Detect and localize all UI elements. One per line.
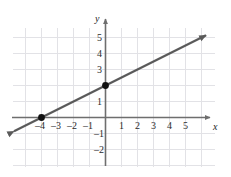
coordinate-graph: –4 –3 –2 –1 1 2 3 4 5 5 4 3 1 –1 –2 y x <box>0 0 231 177</box>
xtick-label-pos4: 4 <box>167 121 172 131</box>
grid-lines <box>13 28 215 167</box>
xtick-label-pos2: 2 <box>135 121 140 131</box>
ytick-label-neg2: –2 <box>94 145 104 155</box>
ytick-label-neg1: –1 <box>94 129 104 139</box>
plot-canvas <box>0 0 231 177</box>
xtick-label-pos1: 1 <box>119 121 124 131</box>
x-axis-label: x <box>213 122 217 132</box>
ytick-label-pos3: 3 <box>97 65 102 75</box>
ytick-label-pos5: 5 <box>97 33 102 43</box>
y-axis-label: y <box>95 14 99 24</box>
xtick-label-pos5: 5 <box>183 121 188 131</box>
xtick-label-pos3: 3 <box>151 121 156 131</box>
xtick-label-neg1: –1 <box>83 121 93 131</box>
point-y-intercept <box>102 82 109 89</box>
xtick-label-neg2: –2 <box>67 121 77 131</box>
xtick-label-neg4: –4 <box>35 121 45 131</box>
xtick-label-neg3: –3 <box>51 121 61 131</box>
ytick-label-pos4: 4 <box>97 49 102 59</box>
ytick-label-pos1: 1 <box>97 97 102 107</box>
